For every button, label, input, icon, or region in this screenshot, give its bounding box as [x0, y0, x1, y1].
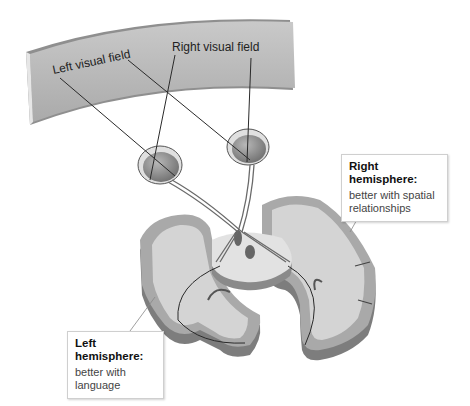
right-hemisphere-line1: better with spatial	[349, 189, 439, 202]
right-visual-field-label: Right visual field	[172, 40, 259, 54]
left-hemisphere-line1: better with	[75, 366, 155, 379]
right-hemisphere-title: Right hemisphere:	[349, 160, 439, 186]
left-eye	[138, 146, 182, 184]
left-hemisphere-title: Left hemisphere:	[75, 337, 155, 363]
left-hemisphere-line2: language	[75, 379, 155, 392]
left-hemisphere-callout: Left hemisphere: better with language	[67, 331, 164, 399]
right-hemisphere-line2: relationships	[349, 202, 439, 215]
right-hemisphere-callout: Right hemisphere: better with spatial re…	[341, 154, 448, 222]
